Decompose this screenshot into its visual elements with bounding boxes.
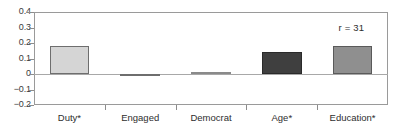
bar [262,52,302,74]
x-axis-category-label: Education* [317,112,388,123]
x-axis-category-label: Engaged [105,112,176,123]
bar [333,46,373,74]
bar [120,74,160,76]
x-axis-category-label: Democrat [176,112,247,123]
x-axis-category-label: Duty* [34,112,105,123]
x-axis-category-label: Age* [246,112,317,123]
y-axis-tick-label: 0.4 [3,7,31,16]
y-axis-tick-label: 0.3 [3,23,31,32]
y-axis-tick-label: 0.1 [3,54,31,63]
bar-chart-figure: 0.40.30.20.10−0.1−0.2 Duty*EngagedDemocr… [0,0,399,133]
x-axis-tick-mark [317,105,318,110]
x-axis-tick-mark [176,105,177,110]
x-axis-tick-mark [246,105,247,110]
y-axis-tick-mark [29,105,34,106]
y-axis-tick-label: −0.1 [3,85,31,94]
y-axis-tick-label: 0.2 [3,38,31,47]
bar [50,46,90,74]
y-axis-labels: 0.40.30.20.10−0.1−0.2 [0,0,31,133]
x-axis-tick-mark [105,105,106,110]
y-axis-tick-label: 0 [3,69,31,78]
bar [191,72,231,74]
zero-baseline [34,74,388,75]
y-axis-tick-label: −0.2 [3,100,31,109]
chart-annotation: r = 31 [338,22,364,33]
